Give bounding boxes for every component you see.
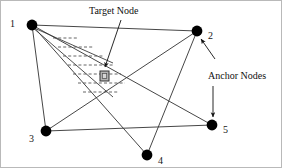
anchor-nodes-callout-label: Anchor Nodes <box>208 71 266 81</box>
node-label-1: 1 <box>10 19 15 29</box>
edge-layer <box>32 25 212 155</box>
target-node-callout-label: Target Node <box>89 6 138 16</box>
uncertainty-wedge <box>32 27 113 97</box>
anchor-node-2[interactable] <box>192 26 203 37</box>
anchor-node-3[interactable] <box>41 126 52 137</box>
edge-1-3 <box>32 25 46 131</box>
edge-1-2 <box>32 25 197 31</box>
uncertainty-dashed-lines <box>53 38 125 92</box>
target-node-arrow <box>105 20 121 67</box>
node-label-5: 5 <box>223 125 228 135</box>
network-diagram-figure: 12345 Target Node Anchor Nodes <box>0 0 282 168</box>
wedge-ray-upper <box>32 27 113 63</box>
anchor-node-1[interactable] <box>27 20 38 31</box>
edge-3-5 <box>46 125 212 131</box>
edge-1-5 <box>32 25 212 125</box>
wedge-ray-lower <box>32 27 113 97</box>
node-label-2: 2 <box>208 31 213 41</box>
node-layer <box>27 20 218 161</box>
target-node-layer <box>100 71 109 81</box>
anchor-node-4[interactable] <box>142 150 153 161</box>
edge-1-4 <box>32 25 147 155</box>
target-node-marker-inner <box>102 74 106 79</box>
edge-2-3 <box>46 31 197 131</box>
diagram-canvas <box>1 1 282 168</box>
anchor-node-5[interactable] <box>207 120 218 131</box>
node-label-3: 3 <box>29 134 34 144</box>
anchor-arrow-node2 <box>201 39 215 59</box>
node-label-4: 4 <box>158 156 163 166</box>
